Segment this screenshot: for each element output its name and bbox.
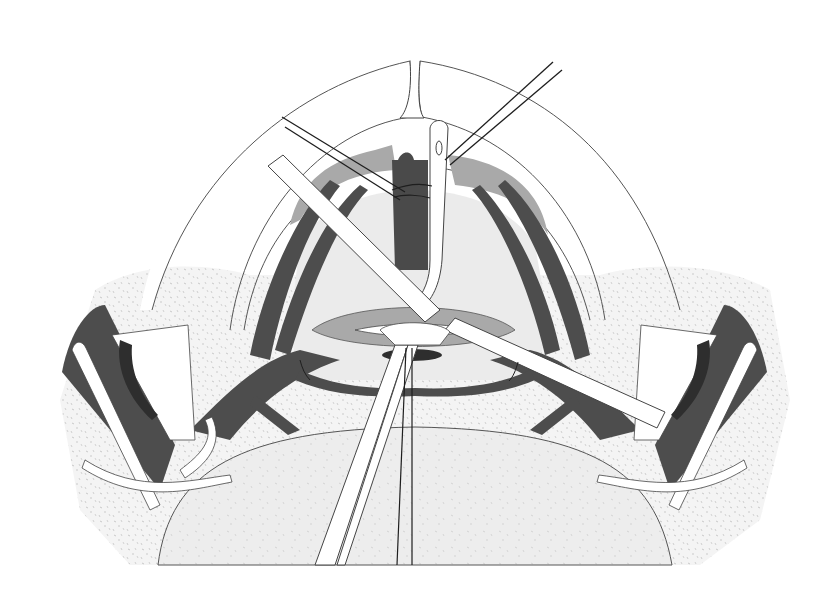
central-dark-vessel [392,153,428,271]
suture-pair-upper-right [445,62,562,165]
illustration-canvas [0,0,829,613]
surgical-illustration [0,0,829,613]
